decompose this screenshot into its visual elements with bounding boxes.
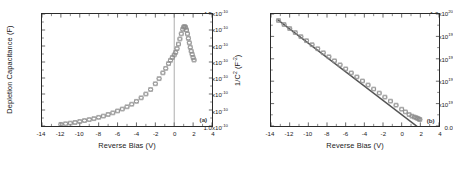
panel-b-plot-area <box>270 13 440 127</box>
x-tick-label: -8 <box>96 130 101 137</box>
x-tick-label: 2 <box>419 130 422 137</box>
panel-a-plot-area <box>41 13 213 127</box>
panel-a-x-axis-title: Reverse Bias (V) <box>41 141 213 150</box>
x-tick-label: -14 <box>266 130 275 137</box>
panel-b-y-axis-title: 1/C2 (F-2) <box>232 13 242 127</box>
x-tick-label: -14 <box>37 130 46 137</box>
x-tick-label: -12 <box>284 130 293 137</box>
figure-capacitance-voltage: Depletion Capacitance (F) 1.0x10-101.5x1… <box>0 0 453 173</box>
x-tick-label: 0 <box>173 130 176 137</box>
data-series-markers <box>276 19 422 122</box>
panel-a: Depletion Capacitance (F) 1.0x10-101.5x1… <box>0 0 228 173</box>
panel-a-y-axis-title: Depletion Capacitance (F) <box>5 13 14 127</box>
x-tick-label: -4 <box>134 130 139 137</box>
panel-b-tag: (b) <box>427 117 435 124</box>
data-series-markers <box>59 25 196 126</box>
x-tick-label: -4 <box>362 130 367 137</box>
x-tick-label: 4 <box>438 130 441 137</box>
x-tick-label: -6 <box>115 130 120 137</box>
x-tick-label: -6 <box>343 130 348 137</box>
x-tick-label: 2 <box>192 130 195 137</box>
x-tick-label: -8 <box>324 130 329 137</box>
x-tick-label: -2 <box>381 130 386 137</box>
x-tick-label: -12 <box>56 130 65 137</box>
x-tick-label: -2 <box>153 130 158 137</box>
x-tick-label: -10 <box>303 130 312 137</box>
panel-a-plot-svg <box>42 14 212 126</box>
x-tick-label: 0 <box>401 130 404 137</box>
x-tick-label: 4 <box>211 130 214 137</box>
x-tick-label: -10 <box>75 130 84 137</box>
panel-b: 1/C2 (F-2) 0.02.0x10194.0x10196.0x10198.… <box>228 0 453 173</box>
panel-b-plot-svg <box>271 14 439 126</box>
panel-b-x-axis-title: Reverse Bias (V) <box>270 141 440 150</box>
panel-a-tag: (a) <box>200 116 208 123</box>
